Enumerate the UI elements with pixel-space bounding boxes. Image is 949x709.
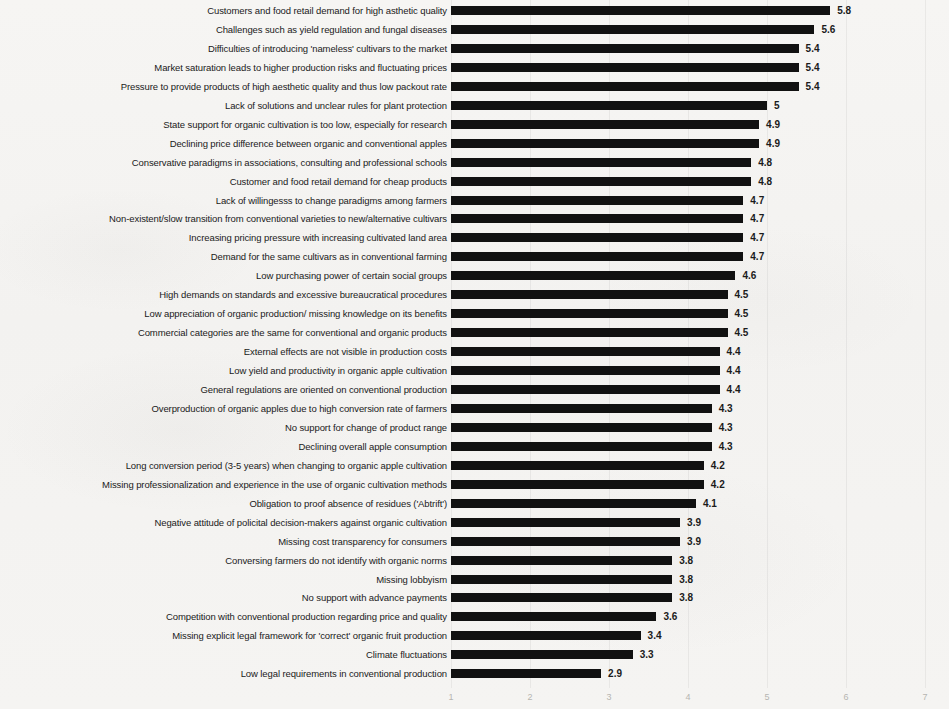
bar-value-label: 3.9 (687, 532, 701, 551)
bar-row: Commercial categories are the same for c… (0, 323, 949, 342)
bar-row: Increasing pricing pressure with increas… (0, 228, 949, 247)
bar (451, 461, 704, 470)
bar (451, 366, 720, 375)
bar-value-label: 4.7 (750, 247, 764, 266)
x-axis-tick-label: 1 (448, 690, 453, 704)
bar (451, 233, 743, 242)
bar-value-label: 4.4 (727, 361, 741, 380)
category-label: General regulations are oriented on conv… (200, 380, 447, 399)
bar-value-label: 5.8 (837, 1, 851, 20)
bar (451, 556, 672, 565)
bar-row: Long conversion period (3-5 years) when … (0, 456, 949, 475)
bar-value-label: 4.3 (719, 418, 733, 437)
bar-row: Climate fluctuations3.3 (0, 645, 949, 664)
x-axis-tick-label: 5 (764, 690, 769, 704)
bar-row: Low purchasing power of certain social g… (0, 266, 949, 285)
x-axis-tick-label: 3 (606, 690, 611, 704)
bar-row: Overproduction of organic apples due to … (0, 399, 949, 418)
bar-row: Market saturation leads to higher produc… (0, 58, 949, 77)
bar-row: Negative attitude of policital decision-… (0, 513, 949, 532)
bar (451, 650, 633, 659)
bar-value-label: 4.7 (750, 228, 764, 247)
category-label: Difficulties of introducing 'nameless' c… (208, 39, 447, 58)
bar-row: Lack of willingesss to change paradigms … (0, 191, 949, 210)
bar-row: Customer and food retail demand for chea… (0, 172, 949, 191)
bar (451, 290, 728, 299)
bar-value-label: 5.4 (806, 77, 820, 96)
bar-row: External effects are not visible in prod… (0, 342, 949, 361)
category-label: Low purchasing power of certain social g… (256, 266, 447, 285)
bar-row: Missing professionalization and experien… (0, 475, 949, 494)
category-label: Lack of solutions and unclear rules for … (225, 96, 447, 115)
category-label: Missing cost transparency for consumers (278, 532, 447, 551)
category-label: Overproduction of organic apples due to … (152, 399, 448, 418)
bar-row: No support for change of product range4.… (0, 418, 949, 437)
category-label: Conservative paradigms in associations, … (132, 153, 447, 172)
bar-value-label: 4.5 (735, 304, 749, 323)
category-label: Pressure to provide products of high aes… (121, 77, 447, 96)
bar-row: Obligation to proof absence of residues … (0, 494, 949, 513)
bar-row: Missing explicit legal framework for 'co… (0, 626, 949, 645)
category-label: Declining overall apple consumption (298, 437, 447, 456)
bar-row: General regulations are oriented on conv… (0, 380, 949, 399)
bar-row: Non-existent/slow transition from conven… (0, 209, 949, 228)
bar-row: Declining overall apple consumption4.3 (0, 437, 949, 456)
bar-value-label: 3.8 (679, 551, 693, 570)
category-label: Declining price difference between organ… (170, 134, 447, 153)
bar-row: Customers and food retail demand for hig… (0, 1, 949, 20)
bar-value-label: 4.9 (766, 134, 780, 153)
bar-value-label: 3.9 (687, 513, 701, 532)
category-label: No support for change of product range (285, 418, 447, 437)
x-axis-tick-label: 7 (922, 690, 927, 704)
bar-row: Low legal requirements in conventional p… (0, 664, 949, 683)
bar-value-label: 3.3 (640, 645, 654, 664)
category-label: Missing professionalization and experien… (102, 475, 447, 494)
bar-value-label: 3.6 (663, 607, 677, 626)
bar-row: Lack of solutions and unclear rules for … (0, 96, 949, 115)
category-label: Obligation to proof absence of residues … (249, 494, 447, 513)
category-label: Increasing pricing pressure with increas… (189, 228, 447, 247)
bar (451, 575, 672, 584)
bar (451, 593, 672, 602)
bar (451, 25, 814, 34)
bar-row: Pressure to provide products of high aes… (0, 77, 949, 96)
bar (451, 499, 696, 508)
category-label: Demand for the same cultivars as in conv… (211, 247, 447, 266)
category-label: Conversing farmers do not identify with … (225, 551, 447, 570)
bar (451, 537, 680, 546)
bar-value-label: 3.8 (679, 570, 693, 589)
bar-row: No support with advance payments3.8 (0, 588, 949, 607)
category-label: Low appreciation of organic production/ … (144, 304, 447, 323)
bar-value-label: 4.5 (735, 323, 749, 342)
bar (451, 347, 720, 356)
bar (451, 101, 767, 110)
bar (451, 518, 680, 527)
category-label: Long conversion period (3-5 years) when … (126, 456, 447, 475)
bar (451, 669, 601, 678)
bar-value-label: 4.5 (735, 285, 749, 304)
bar-row: Competition with conventional production… (0, 607, 949, 626)
bar (451, 177, 751, 186)
category-label: No support with advance payments (302, 588, 447, 607)
bar-row: Conservative paradigms in associations, … (0, 153, 949, 172)
bar-value-label: 4.2 (711, 456, 725, 475)
category-label: Missing explicit legal framework for 'co… (172, 626, 447, 645)
bar (451, 328, 728, 337)
category-label: Challenges such as yield regulation and … (216, 20, 447, 39)
category-label: Non-existent/slow transition from conven… (109, 209, 447, 228)
bar (451, 252, 743, 261)
category-label: Competition with conventional production… (166, 607, 447, 626)
bar (451, 158, 751, 167)
bar-value-label: 4.2 (711, 475, 725, 494)
scanned-chart-page: Customers and food retail demand for hig… (0, 0, 949, 709)
category-label: Customers and food retail demand for hig… (207, 1, 447, 20)
bar (451, 404, 712, 413)
bar-value-label: 5.4 (806, 39, 820, 58)
bar-value-label: 4.9 (766, 115, 780, 134)
bar-value-label: 3.4 (648, 626, 662, 645)
bar (451, 309, 728, 318)
bar-row: Conversing farmers do not identify with … (0, 551, 949, 570)
bar-value-label: 4.6 (742, 266, 756, 285)
bar-value-label: 4.1 (703, 494, 717, 513)
x-axis-tick-label: 4 (685, 690, 690, 704)
